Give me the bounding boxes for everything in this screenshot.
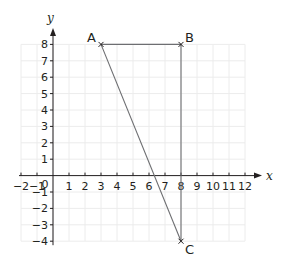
coordinate-grid-svg: xy −2−1123456789101112087654321−1−2−3−4 … [0,0,286,265]
x-tick-label: 7 [162,180,169,193]
y-tick-label: −4 [32,235,48,248]
coordinate-diagram: xy −2−1123456789101112087654321−1−2−3−4 … [0,0,286,265]
x-tick-label: 6 [146,180,153,193]
point-label-a: A [87,30,96,45]
y-tick-label: 1 [41,153,48,166]
y-tick-label: 4 [41,104,48,117]
x-tick-label: 5 [130,180,137,193]
y-tick-label: 3 [41,120,48,133]
point-label-c: C [185,242,194,257]
point-label-b: B [185,30,194,45]
y-axis-label: y [46,11,54,25]
x-tick-label: 9 [194,180,201,193]
y-tick-label: −2 [32,202,48,215]
x-tick-label: 3 [98,180,105,193]
grid-lines [21,44,245,241]
points: ABC [87,30,194,257]
y-axis-arrow-icon [50,28,56,36]
tick-labels: −2−1123456789101112087654321−1−2−3−4 [13,38,252,248]
axes: xy [19,11,273,245]
x-tick-label: 1 [66,180,73,193]
y-tick-label: 5 [41,88,48,101]
x-tick-label: 12 [238,180,252,193]
y-tick-label: 7 [41,55,48,68]
x-axis-label: x [266,169,273,183]
x-tick-label: 11 [222,180,236,193]
y-tick-label: 8 [41,38,48,51]
y-tick-label: 6 [41,71,48,84]
x-tick-label: 10 [206,180,220,193]
y-tick-label: −1 [32,186,48,199]
x-tick-label: 2 [82,180,89,193]
x-tick-label: 4 [114,180,121,193]
x-axis-arrow-icon [254,173,262,179]
x-tick-label: −2 [13,180,29,193]
y-tick-label: −3 [32,219,48,232]
y-tick-label: 2 [41,137,48,150]
